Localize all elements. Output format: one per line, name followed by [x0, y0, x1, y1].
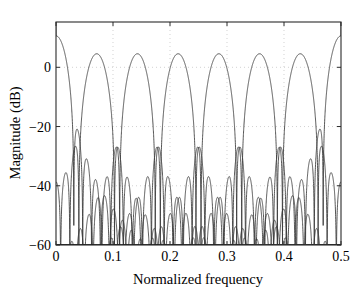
- figure-container: 00.10.20.30.40.5 0−20−40−60 Normalized f…: [0, 0, 364, 293]
- tick-marks: [56, 22, 341, 245]
- y-tick-label: −60: [29, 238, 51, 253]
- filter-response-curve: [56, 22, 341, 245]
- x-tick-label: 0.1: [104, 249, 122, 264]
- x-axis-title: Normalized frequency: [133, 271, 264, 287]
- y-tick-label: −40: [29, 179, 51, 194]
- y-tick-labels: 0−20−40−60: [29, 60, 51, 253]
- plot-frame: [56, 22, 341, 245]
- filter-response-curve: [56, 54, 341, 245]
- grid-lines: [56, 22, 341, 245]
- filter-response-curve: [56, 22, 341, 245]
- y-tick-label: 0: [44, 60, 51, 75]
- x-tick-label: 0: [53, 249, 60, 264]
- magnitude-response-chart: 00.10.20.30.40.5 0−20−40−60 Normalized f…: [0, 0, 364, 293]
- x-tick-label: 0.2: [161, 249, 179, 264]
- filter-response-curves: [56, 22, 341, 245]
- x-tick-label: 0.4: [275, 249, 293, 264]
- y-tick-label: −20: [29, 120, 51, 135]
- x-tick-label: 0.5: [332, 249, 350, 264]
- axis-frame: [56, 22, 341, 245]
- x-tick-label: 0.3: [218, 249, 236, 264]
- y-axis-title: Magnitude (dB): [7, 86, 24, 179]
- x-tick-labels: 00.10.20.30.40.5: [53, 249, 350, 264]
